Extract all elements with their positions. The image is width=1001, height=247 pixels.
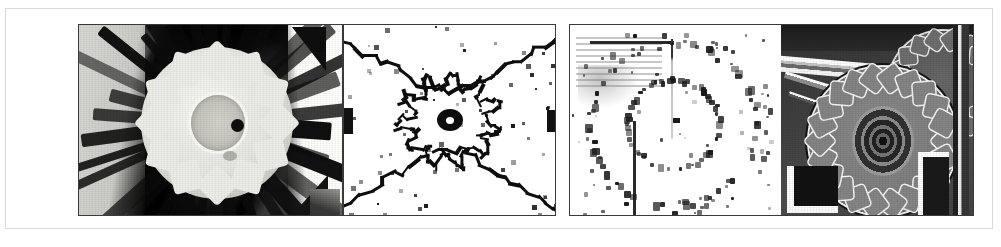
- panel-2-speckle: [462, 98, 466, 102]
- panel-binary-edge-map[interactable]: [343, 24, 556, 216]
- panel-2-speckle: [544, 196, 547, 199]
- panel-sparse-dot-feature-map[interactable]: [569, 24, 781, 216]
- panel-3-speckle: [601, 210, 604, 213]
- panel-3-inner-ring-dot: [661, 81, 666, 87]
- panel-3-outer-ring-dot: [749, 98, 753, 102]
- panel-2-speckle: [368, 45, 370, 47]
- panel-2-speckle: [351, 186, 356, 191]
- panel-2-speckle: [491, 74, 495, 78]
- panel-grayscale-gear-photograph[interactable]: [78, 24, 343, 216]
- panel-3-outer-ring-dot: [613, 68, 617, 72]
- panel-3-inner-ring-dot: [627, 137, 632, 142]
- panel-3-horizontal-line: [590, 41, 674, 44]
- panel-1-bottom-right-corner: [310, 189, 340, 215]
- panel-3-speckle: [767, 184, 769, 186]
- panel-3-speckle: [595, 115, 597, 117]
- panel-3-outer-ring-dot: [715, 58, 720, 64]
- panel-3-speckle: [769, 140, 774, 145]
- panel-2-speckle: [427, 148, 431, 152]
- panel-3-outer-ring-dot: [683, 40, 688, 44]
- panel-2-speckle: [549, 82, 552, 85]
- panel-3-outer-ring-dot: [676, 42, 682, 49]
- panel-2-speckle: [424, 204, 428, 208]
- panel-3-outer-scatter-dot: [694, 212, 696, 214]
- panel-3-speckle: [685, 91, 688, 94]
- panel-3-outer-scatter-dot: [711, 41, 715, 44]
- panel-3-outer-scatter-dot: [763, 84, 768, 89]
- panel-3-speckle: [692, 100, 697, 105]
- panel-3-outer-ring-dot: [752, 136, 757, 141]
- panel-3-outer-scatter-dot: [731, 197, 733, 200]
- panel-3-outer-ring-dot: [745, 88, 752, 95]
- panel-3-outer-ring-dot: [657, 47, 663, 51]
- panel-2-speckle: [463, 49, 466, 52]
- panel-2-speckle: [501, 168, 505, 172]
- panel-3-inner-ring-dot: [654, 80, 658, 84]
- panel-3-speckle: [637, 52, 641, 56]
- panel-3-inner-ring-dot: [641, 153, 648, 159]
- panel-3-outer-ring-dot: [653, 202, 660, 211]
- panel-2-speckle: [391, 172, 394, 175]
- panel-3-outer-ring-dot: [660, 202, 665, 207]
- panel-2-speckle: [349, 213, 354, 215]
- panel-3-outer-scatter-dot: [766, 151, 770, 155]
- panel-clockwork-photograph[interactable]: [781, 24, 974, 216]
- panel-3-inner-ring-dot: [703, 152, 710, 158]
- panel-3-inner-ring-dot: [713, 106, 718, 112]
- panel-3-outer-ring-dot: [600, 164, 607, 169]
- panel-2-speckle: [377, 203, 379, 205]
- panel-3-outer-scatter-dot: [761, 93, 764, 96]
- panel-2-speckle: [551, 64, 555, 68]
- panel-3-speckle: [760, 149, 765, 154]
- panel-3-inner-ring-dot: [636, 150, 640, 155]
- panel-3-outer-ring-dot: [754, 121, 761, 129]
- panel-3-outer-ring-dot: [601, 81, 606, 86]
- panel-1-top-right-wedge: [292, 27, 326, 71]
- panel-2-speckle: [418, 207, 422, 211]
- panel-3-speckle: [660, 138, 664, 142]
- panel-2-speckle: [511, 124, 515, 128]
- image-panel-strip: [0, 0, 1001, 247]
- panel-3-outer-scatter-dot: [583, 74, 585, 76]
- panel-3-outer-scatter-dot: [633, 34, 637, 38]
- panel-2-speckle: [367, 69, 371, 73]
- panel-2-speckle: [433, 170, 437, 174]
- panel-3-inner-ring-dot: [695, 162, 701, 168]
- panel-3-inner-ring-dot: [625, 113, 632, 119]
- panel-3-speckle: [762, 39, 765, 42]
- panel-3-vertical-line: [671, 39, 673, 139]
- panel-4-right-rail: [953, 25, 969, 215]
- panel-3-outer-scatter-dot: [766, 116, 770, 119]
- panel-3-outer-scatter-dot: [767, 94, 770, 97]
- panel-3-outer-scatter-dot: [624, 202, 629, 206]
- panel-2-speckle: [542, 52, 545, 55]
- panel-2-speckle: [542, 153, 545, 156]
- panel-2-speckle: [554, 204, 555, 209]
- panel-2-speckle: [460, 43, 464, 47]
- panel-2-speckle: [482, 133, 484, 135]
- panel-3-inner-ring-dot: [642, 88, 646, 91]
- panel-3-outer-ring-dot: [618, 183, 624, 191]
- panel-3-speckle: [740, 131, 744, 135]
- panel-2-gear-contour: [393, 126, 402, 132]
- panel-2-speckle: [456, 103, 459, 106]
- panel-2-gear-contour: [406, 115, 419, 120]
- panel-3-outer-ring-dot: [631, 54, 635, 57]
- panel-3-outer-scatter-dot: [763, 105, 767, 108]
- panel-3-inner-ring-dot: [634, 97, 641, 105]
- panel-4-bottom-left-bracket: [787, 166, 838, 213]
- panel-3-vertical-line-lower: [633, 121, 636, 215]
- panel-3-outer-scatter-dot: [684, 33, 689, 38]
- panel-3-outer-ring-dot: [716, 188, 721, 194]
- panel-2-speckle: [380, 155, 383, 158]
- panel-2-speckle: [420, 92, 423, 95]
- panel-3-inner-ring-dot: [628, 105, 635, 111]
- panel-3-outer-ring-dot: [594, 100, 598, 105]
- panel-3-outer-scatter-dot: [697, 210, 702, 215]
- panel-3-outer-scatter-dot: [572, 114, 574, 117]
- panel-2-speckle: [527, 137, 530, 140]
- panel-3-outer-ring-dot: [585, 124, 593, 133]
- panel-3-inner-ring-dot: [671, 78, 675, 83]
- panel-3-inner-ring-dot: [679, 167, 682, 171]
- panel-1-image: [79, 25, 342, 215]
